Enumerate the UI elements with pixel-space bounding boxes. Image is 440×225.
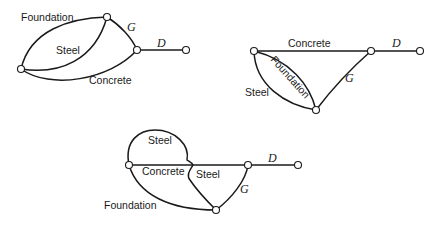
label-foundation: Foundation	[104, 199, 157, 211]
diagram-2: Concrete Foundation Steel G D	[245, 36, 424, 114]
diagram-1: Foundation Steel Concrete G D	[18, 11, 190, 86]
node-start	[126, 162, 133, 169]
label-steel: Steel	[56, 44, 80, 56]
node-start	[251, 48, 258, 55]
label-foundation: Foundation	[21, 11, 74, 23]
node-bottom	[313, 107, 320, 114]
edge-steel	[254, 51, 316, 110]
node-bottom	[213, 207, 220, 214]
label-concrete: Concrete	[142, 165, 185, 177]
node-mid	[134, 47, 141, 54]
label-d: D	[391, 36, 401, 50]
node-top	[104, 14, 111, 21]
node-end	[417, 48, 424, 55]
label-steel: Steel	[245, 86, 269, 98]
label-g: G	[127, 20, 136, 34]
edge-g	[316, 51, 371, 110]
label-d: D	[267, 151, 277, 165]
label-concrete: Concrete	[89, 74, 132, 86]
label-concrete: Concrete	[288, 37, 331, 49]
node-end	[183, 47, 190, 54]
label-g: G	[240, 182, 249, 196]
label-steel-cross: Steel	[196, 168, 220, 180]
label-steel-top: Steel	[148, 134, 172, 146]
node-start	[18, 66, 25, 73]
node-mid	[245, 162, 252, 169]
node-mid	[368, 48, 375, 55]
diagram-3: Steel Concrete Steel Foundation G D	[104, 130, 302, 214]
node-end	[295, 162, 302, 169]
label-d: D	[156, 36, 166, 50]
label-g: G	[345, 71, 354, 85]
network-diagrams-canvas: Foundation Steel Concrete G D Concrete F…	[0, 0, 440, 225]
